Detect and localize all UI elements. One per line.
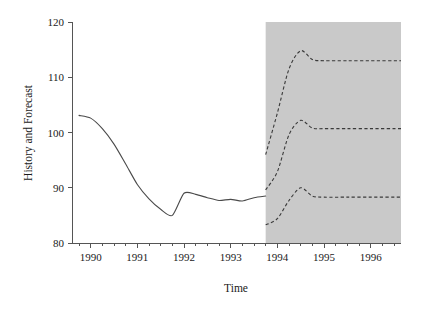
forecast-line-chart: 8090100110120 19901991199219931994199519… [0, 0, 425, 310]
x-tick-label-1996: 1996 [360, 251, 383, 263]
y-tick-label-110: 110 [48, 71, 65, 83]
x-tick-label-1994: 1994 [266, 251, 289, 263]
chart-figure: 8090100110120 19901991199219931994199519… [0, 0, 425, 310]
y-tick-label-100: 100 [48, 127, 65, 139]
x-tick-label-1993: 1993 [220, 251, 243, 263]
forecast-shaded-region [266, 22, 401, 243]
y-tick-label-90: 90 [53, 182, 65, 194]
x-tick-label-1990: 1990 [80, 251, 103, 263]
y-axis-title: History and Forecast [22, 84, 35, 181]
x-tick-label-1991: 1991 [126, 251, 148, 263]
forecast-shaded-region [266, 22, 401, 243]
y-tick-label-80: 80 [53, 237, 65, 249]
y-tick-label-120: 120 [48, 16, 65, 28]
x-tick-label-1995: 1995 [313, 251, 336, 263]
x-tick-label-1992: 1992 [173, 251, 195, 263]
x-axis-title: Time [224, 282, 248, 294]
